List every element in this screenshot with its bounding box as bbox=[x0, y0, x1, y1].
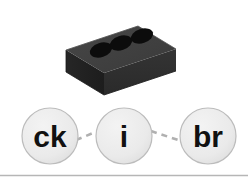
node-ck-label: ck bbox=[33, 120, 67, 153]
node-br-label: br bbox=[193, 120, 223, 153]
page-root: ck i br bbox=[0, 0, 248, 192]
node-br[interactable]: br bbox=[180, 108, 236, 164]
word-graph-nodes: ck i br bbox=[22, 108, 236, 164]
node-ck[interactable]: ck bbox=[22, 108, 78, 164]
node-i-label: i bbox=[120, 120, 128, 153]
worksheet-artwork: ck i br bbox=[0, 0, 248, 192]
node-i[interactable]: i bbox=[96, 108, 152, 164]
